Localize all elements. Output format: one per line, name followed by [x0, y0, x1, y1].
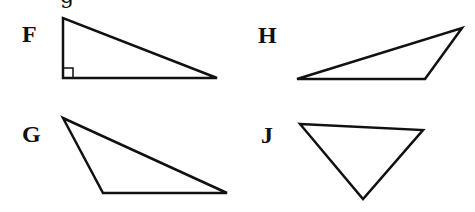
triangle-g-obtuse — [63, 118, 227, 193]
triangle-j-acute — [300, 124, 423, 199]
triangle-h-obtuse — [297, 28, 462, 79]
triangle-f-right — [63, 18, 217, 78]
right-angle-marker-icon — [63, 68, 73, 78]
triangle-answer-choices: g F H G J — [0, 0, 475, 212]
triangles-figure — [0, 0, 475, 212]
